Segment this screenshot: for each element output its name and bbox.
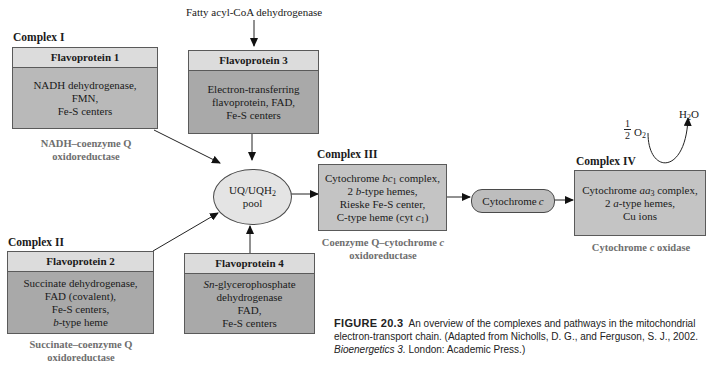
c3-line: Cytochrome bc1 complex,: [325, 172, 440, 185]
complex1-name-line2: oxidoreductase: [12, 150, 160, 163]
complex2-name: Succinate–coenzyme Q oxidoreductase: [7, 338, 155, 364]
flavoprotein4-box: Flavoprotein 4 Sn-glycerophosphate dehyd…: [184, 253, 315, 334]
fp4-line: Fe-S centers: [203, 317, 295, 330]
c3-line: C-type heme (cyt c1): [325, 211, 440, 224]
complex3-name-line1: Coenzyme Q–cytochrome c: [308, 236, 458, 249]
complex3-name-line2: oxidoreductase: [308, 249, 458, 262]
flavoprotein3-header: Flavoprotein 3: [189, 51, 318, 71]
flavoprotein2-body: Succinate dehydrogenase, FAD (covalent),…: [8, 272, 153, 334]
flavoprotein4-body: Sn-glycerophosphate dehydrogenase FAD, F…: [185, 274, 314, 334]
fraction-denominator: 2: [624, 131, 631, 140]
caption-text-end: London: Academic Press.): [406, 344, 526, 355]
flavoprotein1-header: Flavoprotein 1: [13, 48, 157, 68]
fp3-line: Electron-transferring: [207, 83, 299, 96]
fp4-line: FAD,: [203, 304, 295, 317]
complex1-label: Complex I: [13, 31, 64, 43]
complex3-label: Complex III: [317, 148, 377, 160]
uq-pool-ellipse: UQ/UQH2 pool: [213, 169, 292, 225]
fp4-line: dehydrogenase: [203, 291, 295, 304]
complex3-box: Cytochrome bc1 complex, 2 b-type hemes, …: [318, 164, 447, 231]
c3-line: Rieske Fe-S center,: [325, 198, 440, 211]
c3-line: 2 b-type hemes,: [325, 185, 440, 198]
flavoprotein3-body: Electron-transferring flavoprotein, FAD,…: [189, 71, 318, 134]
flavoprotein1-body: NADH dehydrogenase, FMN, Fe-S centers: [13, 68, 157, 129]
figure-caption: FIGURE 20.3 An overview of the complexes…: [334, 317, 712, 356]
cytochrome-c-pill: Cytochrome c: [471, 189, 555, 213]
fp4-line: Sn-glycerophosphate: [203, 278, 295, 291]
complex4-box: Cytochrome aa3 complex, 2 a-type hemes, …: [574, 170, 706, 236]
fp1-line: Fe-S centers: [33, 105, 136, 118]
arrow-complex2-to-pool: [153, 213, 218, 251]
complex4-name: Cytochrome c oxidase: [574, 241, 708, 254]
flavoprotein2-box: Flavoprotein 2 Succinate dehydrogenase, …: [7, 251, 154, 334]
flavoprotein1-box: Flavoprotein 1 NADH dehydrogenase, FMN, …: [12, 47, 158, 129]
oxygen-label: O2: [634, 126, 646, 138]
flavoprotein4-header: Flavoprotein 4: [185, 254, 314, 274]
fp3-line: flavoprotein, FAD,: [207, 96, 299, 109]
flavoprotein3-box: Flavoprotein 3 Electron-transferring fla…: [188, 50, 319, 134]
fp2-line: FAD (covalent),: [23, 290, 137, 303]
fraction-numerator: 1: [624, 119, 631, 128]
fp3-line: Fe-S centers: [207, 109, 299, 122]
c4-line: Cu ions: [582, 210, 698, 223]
fp1-line: FMN,: [33, 92, 136, 105]
complex4-label: Complex IV: [576, 155, 636, 167]
caption-book-title: Bioenergetics 3.: [334, 344, 406, 355]
water-label: H2O: [679, 108, 699, 120]
c4-line: Cytochrome aa3 complex,: [582, 184, 698, 197]
half-fraction: 1 2: [624, 119, 631, 140]
flavoprotein2-header: Flavoprotein 2: [8, 252, 153, 272]
complex2-name-line2: oxidoreductase: [7, 351, 155, 364]
complex2-label: Complex II: [8, 236, 64, 248]
c4-line: 2 a-type hemes,: [582, 197, 698, 210]
arrow-complex1-to-pool: [154, 130, 220, 163]
fp2-line: b-type heme: [23, 316, 137, 329]
arrow-o2-to-h2o: [648, 118, 688, 163]
complex2-name-line1: Succinate–coenzyme Q: [7, 338, 155, 351]
fp2-line: Succinate dehydrogenase,: [23, 277, 137, 290]
fp1-line: NADH dehydrogenase,: [33, 79, 136, 92]
fp2-line: Fe-S centers,: [23, 303, 137, 316]
pool-line1: UQ/UQH2: [229, 184, 276, 197]
complex1-name-line1: NADH–coenzyme Q: [12, 137, 160, 150]
figure-number: FIGURE 20.3: [334, 317, 403, 329]
complex3-name: Coenzyme Q–cytochrome c oxidoreductase: [308, 236, 458, 262]
fatty-acyl-coa-label: Fatty acyl-CoA dehydrogenase: [186, 6, 322, 18]
complex1-name: NADH–coenzyme Q oxidoreductase: [12, 137, 160, 163]
pool-line2: pool: [243, 197, 263, 210]
